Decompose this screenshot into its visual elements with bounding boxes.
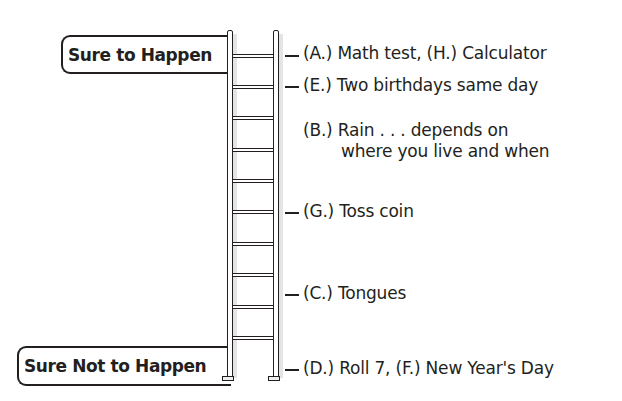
tick-mark-d-f (285, 369, 299, 371)
ladder-rung (233, 179, 273, 183)
event-label-b: (B.) Rain . . . depends on where you liv… (303, 120, 549, 162)
tick-mark-g (285, 212, 299, 214)
event-label-a-h: (A.) Math test, (H.) Calculator (303, 43, 546, 64)
ladder-foot-right (268, 376, 280, 381)
event-label-g: (G.) Toss coin (303, 201, 414, 222)
ladder-rung (233, 210, 273, 214)
event-label-d-f: (D.) Roll 7, (F.) New Year's Day (303, 358, 554, 379)
event-label-b-line1: (B.) Rain . . . depends on (303, 120, 508, 140)
ladder-rung (233, 242, 273, 246)
sure-not-to-happen-sign: Sure Not to Happen (17, 346, 231, 386)
ladder-rail-right (273, 30, 279, 378)
sure-not-to-happen-label: Sure Not to Happen (24, 356, 206, 376)
event-label-b-line2: where you live and when (303, 141, 549, 162)
event-label-c: (C.) Tongues (303, 283, 406, 304)
tick-mark-e (285, 86, 299, 88)
event-label-e: (E.) Two birthdays same day (303, 75, 538, 96)
ladder-rung (233, 148, 273, 152)
tick-mark-a-h (285, 55, 299, 57)
ladder-rung (233, 54, 273, 58)
ladder-shadow-right (279, 34, 283, 378)
ladder-rail-left (227, 30, 233, 378)
ladder-rung (233, 336, 273, 340)
ladder-rung (233, 116, 273, 120)
tick-mark-c (285, 294, 299, 296)
sure-to-happen-label: Sure to Happen (68, 45, 212, 65)
sure-to-happen-sign: Sure to Happen (61, 35, 231, 74)
ladder-foot-left (222, 376, 234, 381)
ladder-rung (233, 305, 273, 309)
ladder-rung (233, 273, 273, 277)
ladder-rung (233, 85, 273, 89)
